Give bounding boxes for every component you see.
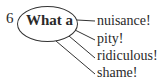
ending-shame: shame! [97, 65, 137, 80]
ending-nuisance: nuisance! [97, 13, 151, 29]
ending-pity: pity! [97, 31, 123, 47]
ending-ridiculous: ridiculous! [97, 48, 158, 64]
connector-lines [0, 0, 162, 80]
